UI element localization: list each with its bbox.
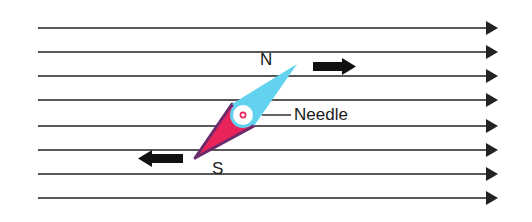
field-line bbox=[38, 191, 498, 205]
field-line bbox=[38, 21, 498, 35]
arrowhead-icon bbox=[486, 143, 498, 157]
north-pole-label: N bbox=[260, 51, 272, 68]
diagram-canvas bbox=[0, 0, 532, 222]
south-force-arrow-icon bbox=[138, 150, 183, 167]
arrowhead-icon bbox=[486, 191, 498, 205]
field-line bbox=[38, 69, 498, 83]
needle-label: Needle bbox=[294, 106, 348, 123]
north-force-arrow-icon bbox=[313, 58, 356, 75]
arrowhead-icon bbox=[486, 167, 498, 181]
field-lines bbox=[38, 21, 498, 205]
field-line bbox=[38, 167, 498, 181]
compass-needle bbox=[195, 64, 297, 158]
arrowhead-icon bbox=[486, 69, 498, 83]
field-line bbox=[38, 143, 498, 157]
arrowhead-icon bbox=[486, 45, 498, 59]
magnetic-field-diagram: N S Needle bbox=[0, 0, 532, 222]
arrowhead-icon bbox=[486, 119, 498, 133]
south-pole-label: S bbox=[212, 160, 223, 177]
needle-pivot-inner bbox=[233, 105, 253, 125]
field-line bbox=[38, 119, 498, 133]
arrowhead-icon bbox=[486, 21, 498, 35]
arrowhead-icon bbox=[486, 93, 498, 107]
